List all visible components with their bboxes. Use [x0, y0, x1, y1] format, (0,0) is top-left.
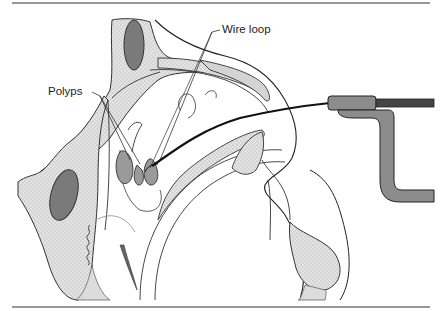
frontal-sinus [124, 20, 144, 70]
nasal-anatomy-figure: Polyps Wire loop [0, 0, 442, 311]
pharynx-tube-2 [268, 180, 271, 240]
pharynx-tube-1 [262, 160, 290, 220]
polyp-2 [134, 165, 143, 185]
wire-loop-label: Wire loop [222, 23, 271, 35]
anatomy-illustration [0, 0, 442, 311]
palate-curve-2 [155, 162, 285, 300]
uvula-sliver [120, 245, 137, 290]
soft-palate-line [96, 216, 135, 232]
snare-rod [376, 99, 434, 107]
palate-curve-1 [140, 150, 282, 300]
turbinate-2 [179, 94, 196, 118]
snare-barrel [328, 96, 376, 110]
turbinate-3 [205, 91, 216, 98]
polyps-label: Polyps [48, 85, 83, 97]
posterior-bulb [289, 222, 340, 290]
polyp-1 [116, 151, 133, 184]
snare-handle [338, 110, 434, 202]
